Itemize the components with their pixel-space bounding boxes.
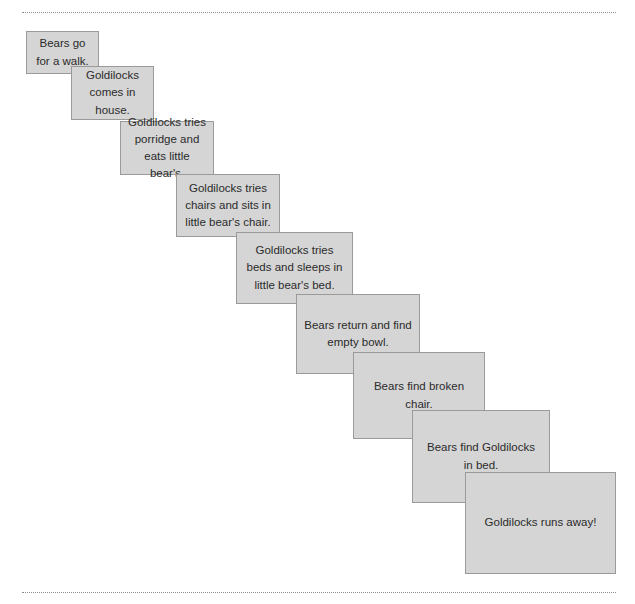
bottom-dotted-divider	[22, 592, 616, 593]
story-card-text: Bears go for a walk.	[33, 35, 92, 70]
story-card-text: Bears return and find empty bowl.	[303, 317, 413, 352]
story-card-text: Goldilocks runs away!	[472, 514, 609, 531]
story-card-text: Bears find broken chair.	[360, 378, 478, 413]
story-sequence-page: Bears go for a walk.Goldilocks comes in …	[0, 0, 635, 604]
story-card-text: Bears find Goldilocks in bed.	[419, 439, 543, 474]
story-card[interactable]: Goldilocks runs away!	[465, 472, 616, 574]
story-card[interactable]: Goldilocks tries porridge and eats littl…	[120, 121, 214, 175]
story-card-text: Goldilocks tries chairs and sits in litt…	[183, 180, 273, 232]
story-card[interactable]: Goldilocks tries chairs and sits in litt…	[176, 174, 280, 237]
story-card-text: Goldilocks tries beds and sleeps in litt…	[243, 242, 346, 294]
story-card-text: Goldilocks comes in house.	[78, 67, 147, 119]
story-card[interactable]: Goldilocks comes in house.	[71, 66, 154, 120]
top-dotted-divider	[22, 12, 616, 13]
story-card-text: Goldilocks tries porridge and eats littl…	[127, 114, 207, 183]
